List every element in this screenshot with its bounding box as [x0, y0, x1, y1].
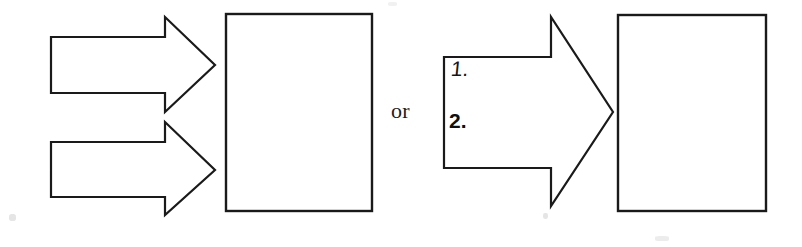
diagram-canvas: or 1. 2.	[0, 0, 802, 247]
box-left	[226, 14, 372, 211]
arrow-top-left	[51, 17, 215, 112]
arrow-combined	[444, 17, 613, 206]
arrow-item-marker-2: 2.	[449, 110, 467, 131]
or-connector-label: or	[391, 100, 410, 122]
box-right	[618, 15, 766, 211]
diagram-figure	[0, 0, 802, 247]
arrow-bottom-left	[51, 122, 215, 215]
arrow-item-marker-1: 1.	[450, 58, 470, 79]
